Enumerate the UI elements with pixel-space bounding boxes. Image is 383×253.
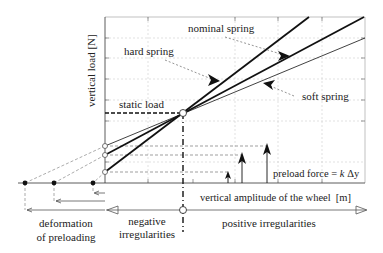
label-pointers	[165, 37, 294, 96]
label-positive: positive irregularities	[222, 217, 316, 229]
preload-force-arrows	[228, 148, 267, 183]
static-point	[180, 110, 187, 117]
negative-irregularities-arrow	[106, 206, 180, 214]
x-axis-label: vertical amplitude of the wheel [m]	[200, 192, 351, 203]
label-static-load: static load	[119, 98, 164, 110]
label-deformation-1: deformation	[39, 217, 93, 229]
spring-preload-diagram: vertical load [N] nominal spring hard sp…	[0, 0, 383, 253]
label-soft-spring: soft spring	[302, 90, 349, 102]
label-preload-force: preload force = k Δy	[273, 168, 360, 179]
label-hard-spring: hard spring	[124, 45, 174, 57]
y-axis-label: vertical load [N]	[85, 34, 97, 107]
deformation-arrows	[27, 191, 105, 212]
label-negative-2: irregularities	[119, 228, 175, 240]
label-deformation-2: of preloading	[37, 231, 96, 243]
preload-force-arrowheads	[225, 143, 271, 179]
positive-irregularities-arrow	[186, 206, 367, 214]
label-nominal-spring: nominal spring	[188, 22, 255, 34]
extension-lines	[25, 146, 105, 210]
label-negative-1: negative	[128, 215, 165, 227]
hard-spring-line	[105, 17, 309, 172]
origin-point	[180, 207, 187, 214]
